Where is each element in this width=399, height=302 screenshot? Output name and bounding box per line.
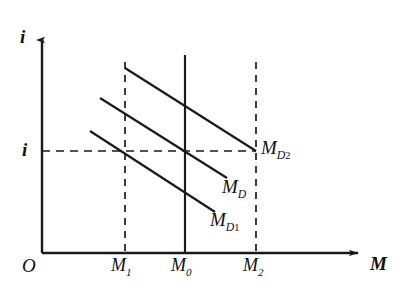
curve-md0-base: M	[222, 176, 238, 197]
diagram-canvas	[0, 0, 399, 302]
curve-label-md2: MD2	[261, 138, 291, 162]
origin-label: O	[22, 256, 36, 275]
curve-md2-subsub: 2	[285, 150, 290, 161]
curve-md0-sub: D	[238, 188, 247, 201]
x-axis-label: M	[370, 254, 387, 273]
x-tick-label-m2: M2	[243, 256, 264, 278]
curve-md2-base: M	[261, 137, 277, 158]
x-tick-m2-sub: 2	[258, 266, 264, 278]
curve-label-md1: MD1	[210, 210, 240, 234]
x-tick-label-m0: M0	[171, 256, 192, 278]
interest-rate-tick-label: i	[22, 140, 27, 159]
y-axis-label: i	[20, 27, 25, 46]
x-tick-m2-base: M	[243, 255, 258, 275]
x-tick-label-m1: M1	[111, 256, 132, 278]
x-tick-m1-sub: 1	[126, 266, 132, 278]
curve-label-md0: MD	[222, 177, 246, 201]
x-tick-m0-base: M	[171, 255, 186, 275]
money-market-diagram: i M O i M1 M0 M2 MD2 MD MD1	[0, 0, 399, 302]
curve-md1-subsub: 1	[234, 222, 239, 233]
curve-md1	[90, 131, 215, 212]
curve-md1-base: M	[210, 209, 226, 230]
x-tick-m0-sub: 0	[186, 266, 192, 278]
curve-md0	[100, 98, 227, 178]
x-tick-m1-base: M	[111, 255, 126, 275]
curve-md2	[125, 68, 256, 151]
